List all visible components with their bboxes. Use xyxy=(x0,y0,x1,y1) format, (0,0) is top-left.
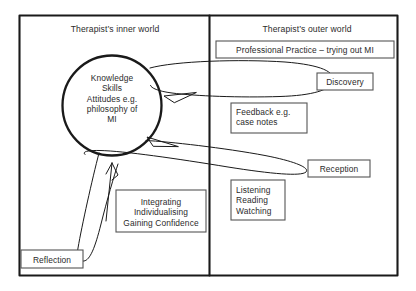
circle-line-4: philosophy of xyxy=(68,104,156,114)
feedback-label: Feedback e.g. case notes xyxy=(236,107,306,128)
circle-line-2: Skills xyxy=(68,83,156,93)
knowledge-circle-label: Knowledge Skills Attitudes e.g. philosop… xyxy=(68,73,156,124)
reception-label: Reception xyxy=(309,164,369,174)
listening-label: Listening Reading Watching xyxy=(236,185,284,216)
integrating-line-2: Individualising xyxy=(117,207,205,217)
diagram-vector-layer xyxy=(0,0,416,291)
integrating-label: Integrating Individualising Gaining Conf… xyxy=(117,197,205,228)
reception-loop-shape xyxy=(84,141,307,175)
integrating-line-3: Gaining Confidence xyxy=(117,218,205,228)
discovery-loop-shape xyxy=(150,61,333,97)
reflection-loop-shape xyxy=(77,153,118,261)
integrating-line-1: Integrating xyxy=(117,197,205,207)
circle-line-5: MI xyxy=(68,114,156,124)
panel-header-inner: Therapist’s inner world xyxy=(30,24,200,34)
professional-practice-label: Professional Practice – trying out MI xyxy=(218,45,392,55)
listening-line-3: Watching xyxy=(236,206,284,216)
discovery-arrowhead xyxy=(164,93,196,103)
discovery-label: Discovery xyxy=(318,77,372,87)
listening-line-2: Reading xyxy=(236,195,284,205)
listening-line-1: Listening xyxy=(236,185,284,195)
circle-line-3: Attitudes e.g. xyxy=(68,94,156,104)
circle-line-1: Knowledge xyxy=(68,73,156,83)
feedback-line-2: case notes xyxy=(236,117,306,127)
reflection-label: Reflection xyxy=(22,255,82,265)
diagram-canvas: Therapist’s inner world Therapist’s oute… xyxy=(0,0,416,291)
reception-arrowhead xyxy=(147,137,178,147)
panel-header-outer: Therapist’s outer world xyxy=(222,24,392,34)
feedback-line-1: Feedback e.g. xyxy=(236,107,306,117)
